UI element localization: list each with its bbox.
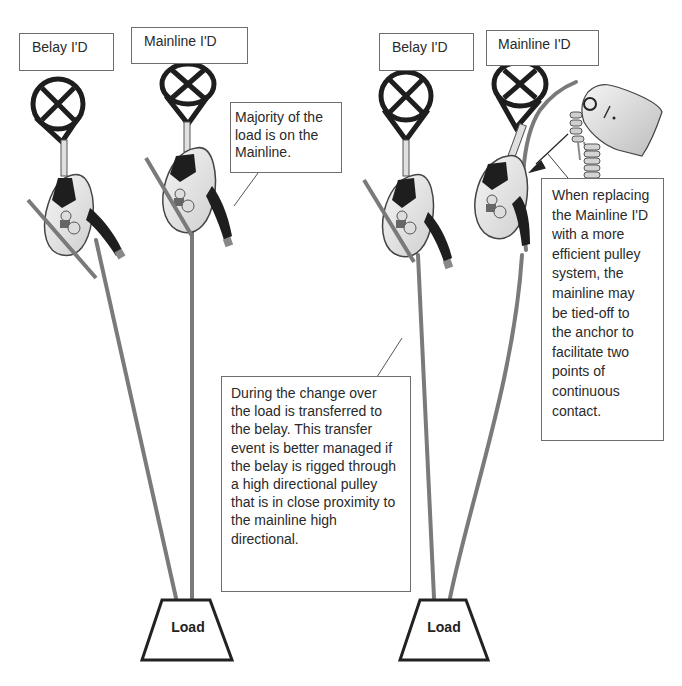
callout-leader [375,338,402,380]
descender-device-icon [146,122,233,247]
callout-leader [234,173,258,206]
pulley-system-note: When replacing the Mainline I'D with a m… [541,178,664,441]
anchor-sling-icon [381,72,431,140]
anchor-sling-icon [162,64,214,124]
arrow-icon [530,134,568,172]
majority-load-note: Majority of the load is on the Mainline. [230,102,342,173]
anchor-sling-icon [33,79,83,176]
mainline-id-label-right: Mainline I'D [486,30,599,66]
rope-grab-icon [570,85,662,178]
callout-leader [548,154,568,178]
belay-id-label-text: Belay I'D [32,39,88,55]
descender-device-icon [364,140,453,269]
belay-id-label-right: Belay I'D [379,33,474,71]
changeover-note: During the change over the load is trans… [221,376,411,592]
mainline-id-label-text: Mainline I'D [498,36,571,52]
load-label-left: Load [148,619,228,635]
mainline-id-label-left: Mainline I'D [131,27,248,64]
belay-id-label-left: Belay I'D [19,33,114,71]
descender-device-icon [28,140,125,278]
descender-device-icon [475,124,530,246]
left-ropes [96,232,192,598]
load-label-right: Load [404,619,484,635]
belay-id-label-text: Belay I'D [392,39,448,55]
rescue-rigging-diagram: Belay I'D Mainline I'D Majority of the l… [0,0,682,686]
anchor-sling-icon [494,62,546,128]
mainline-id-label-text: Mainline I'D [144,33,217,49]
